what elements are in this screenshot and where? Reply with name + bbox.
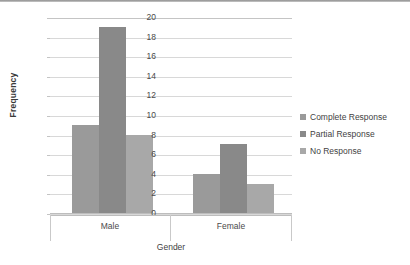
bar: [247, 184, 274, 213]
y-axis-tick-label: 10: [116, 110, 156, 120]
legend-label: Partial Response: [310, 129, 375, 139]
x-axis-category-label: Male: [75, 221, 145, 231]
y-axis-tick-label: 18: [116, 32, 156, 42]
x-axis: MaleFemale: [50, 215, 292, 245]
y-axis-tick-label: 20: [116, 12, 156, 22]
legend-swatch-icon: [300, 114, 306, 120]
y-axis-tick-mark: [47, 57, 50, 58]
legend-label: No Response: [310, 146, 362, 156]
y-axis-tick-mark: [47, 155, 50, 156]
legend-item: Complete Response: [300, 112, 406, 122]
legend-item: Partial Response: [300, 129, 406, 139]
y-axis-tick-mark: [47, 18, 50, 19]
gridline: [50, 77, 292, 78]
bar: [220, 144, 247, 213]
y-axis-tick-mark: [47, 38, 50, 39]
y-axis-tick-label: 4: [116, 169, 156, 179]
legend-label: Complete Response: [310, 112, 387, 122]
y-axis-tick-label: 8: [116, 130, 156, 140]
x-axis-title: Gender: [50, 242, 292, 252]
y-axis-tick-mark: [47, 116, 50, 117]
y-axis-tick-mark: [47, 136, 50, 137]
gridline: [50, 57, 292, 58]
x-axis-tick-start: [50, 215, 51, 241]
y-axis-tick-label: 6: [116, 149, 156, 159]
gridline: [50, 96, 292, 97]
y-axis-tick-mark: [47, 175, 50, 176]
legend-swatch-icon: [300, 148, 306, 154]
bar-chart-figure: Frequency 20181614121086420 MaleFemale G…: [0, 2, 410, 265]
legend-item: No Response: [300, 146, 406, 156]
y-axis-tick-label: 12: [116, 90, 156, 100]
x-axis-tick-mid: [170, 215, 171, 241]
x-axis-category-label: Female: [196, 221, 266, 231]
x-axis-line: [50, 215, 292, 216]
legend-swatch-icon: [300, 131, 306, 137]
y-axis-tick-mark: [47, 77, 50, 78]
gridline: [50, 38, 292, 39]
y-axis-tick-label: 16: [116, 51, 156, 61]
bar: [193, 174, 220, 213]
y-axis-tick-label: 14: [116, 71, 156, 81]
bar: [72, 125, 99, 213]
gridline: [50, 18, 292, 19]
y-axis-tick-label: 2: [116, 188, 156, 198]
chart-legend: Complete ResponsePartial ResponseNo Resp…: [300, 112, 406, 163]
y-axis-tick-mark: [47, 96, 50, 97]
gridline: [50, 116, 292, 117]
y-axis-title: Frequency: [8, 60, 18, 130]
plot-area: [50, 18, 292, 214]
plot-baseline: [50, 213, 292, 214]
x-axis-tick-end: [291, 215, 292, 241]
y-axis-tick-mark: [47, 194, 50, 195]
